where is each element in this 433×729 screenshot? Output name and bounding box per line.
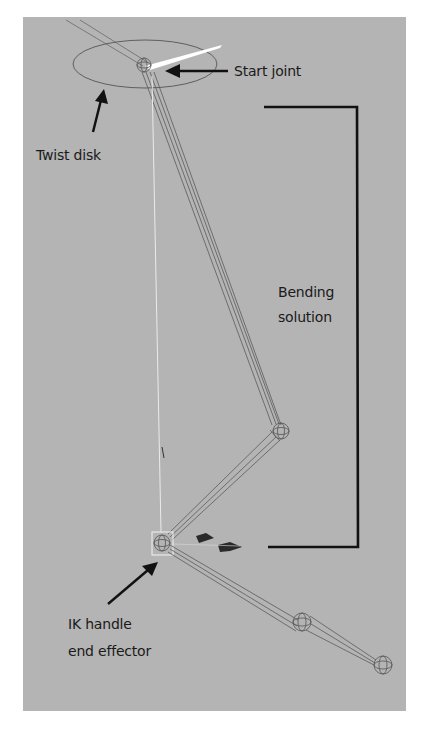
- start-joint-label: Start joint: [234, 62, 301, 80]
- ik-handle-vector-line: [152, 76, 161, 532]
- parent-bone: [66, 20, 147, 66]
- bending-solution-label-line2: solution: [278, 308, 332, 326]
- bending-solution-bracket: [264, 107, 358, 547]
- ik-rig-diagram: [0, 0, 433, 729]
- axis-cone-icon: [218, 542, 242, 552]
- toe-joint-sphere: [374, 656, 392, 674]
- lower-bone: [168, 430, 280, 540]
- bending-solution-label-line1: Bending: [278, 283, 334, 301]
- axis-cone-icon: [196, 533, 214, 543]
- pole-vector-highlight: [145, 45, 222, 70]
- small-tick-mark: [162, 447, 164, 458]
- ik-handle-label-line2: end effector: [68, 642, 151, 660]
- end-effector-sphere: [154, 535, 170, 551]
- foot-bone: [168, 545, 298, 631]
- ik-handle-arrow: [108, 562, 158, 604]
- twist-disk-label: Twist disk: [36, 146, 101, 164]
- ankle-joint-sphere: [293, 613, 311, 631]
- twist-disk-arrow: [93, 89, 108, 132]
- knee-joint-sphere: [273, 423, 289, 439]
- ik-handle-label-line1: IK handle: [68, 615, 132, 633]
- start-joint-arrow: [165, 64, 228, 78]
- upper-bone: [142, 72, 281, 425]
- toe-bone: [306, 616, 376, 665]
